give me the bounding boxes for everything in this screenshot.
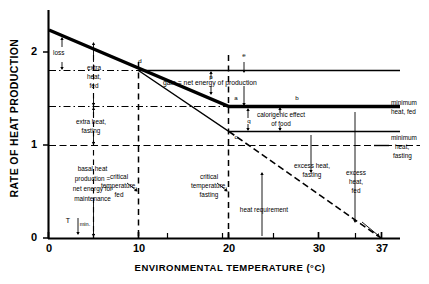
annotation-crit-fasting-line1: critical	[186, 172, 232, 181]
label-minimum-heat-fed-line1: minimum	[391, 98, 429, 107]
label-minimum-heat-fasting-line3: fasting	[393, 151, 429, 160]
x-tick-20: 20	[221, 242, 237, 254]
annotation-extra-heat-fasting-line2: fasting	[53, 126, 129, 135]
annotation-crit-fasting-line2: temperature,	[183, 181, 235, 190]
point-label-e: e	[239, 51, 249, 58]
annotation-t-min: T	[62, 216, 74, 226]
point-label-c: c	[231, 133, 241, 140]
annotation-extra-heat-fed-line2: heat,	[76, 72, 112, 81]
annotation-loss: loss	[53, 48, 77, 57]
pointer-37	[362, 222, 379, 236]
point-label-b: b	[292, 94, 302, 101]
annotation-excess-fed-line1: excess	[337, 168, 375, 177]
annotation-excess-fed-line2: heat,	[337, 177, 375, 186]
annotation-heat-requirement: heat requirement	[228, 205, 300, 214]
annotation-calorigenic-line1: calorigenic effect	[246, 110, 316, 119]
annotation-t-min-subscript: min.	[74, 220, 96, 228]
y-tick-2: 2	[27, 45, 41, 57]
right-level-markers	[374, 107, 389, 146]
label-minimum-heat-fed-line2: heat, fed	[391, 107, 429, 116]
x-tick-30: 30	[311, 242, 327, 254]
y-tick-1: 1	[27, 138, 41, 150]
point-label-d: d	[135, 57, 145, 64]
y-tick-0: 0	[27, 231, 41, 243]
y-axis-title: RATE OF HEAT PRODUCTION	[8, 18, 20, 218]
annotation-extra-heat-fed-line3: fed	[76, 81, 112, 90]
x-tick-0: 0	[42, 242, 56, 254]
heat-production-chart	[0, 0, 429, 284]
x-tick-37: 37	[374, 242, 390, 254]
x-tick-10: 10	[131, 242, 147, 254]
annotation-calorigenic-line2: of food	[246, 119, 316, 128]
annotation-crit-fed-line3: fed	[96, 190, 142, 199]
annotation-crit-fed-line1: critical	[96, 172, 142, 181]
annotation-crit-fasting-line3: fasting	[186, 190, 232, 199]
label-minimum-heat-fasting-line2: heat,	[395, 142, 429, 151]
annotation-extra-heat-fed-line1: extra	[76, 63, 112, 72]
x-axis-title: ENVIRONMENTAL TEMPERATURE (°C)	[90, 262, 370, 273]
point-label-a: a	[231, 94, 241, 101]
annotation-excess-fed-line3: fed	[337, 186, 375, 195]
annotation-crit-fed-line2: temperature,	[93, 181, 145, 190]
annotation-extra-heat-fasting-line1: extra heat,	[53, 117, 129, 126]
annotation-excess-fasting-line2: fasting	[279, 170, 345, 179]
label-minimum-heat-fasting-line1: minimum	[391, 133, 429, 142]
annotation-gain: gain = net energy of production	[163, 78, 323, 88]
annotation-excess-fasting-line1: excess heat,	[279, 161, 345, 170]
